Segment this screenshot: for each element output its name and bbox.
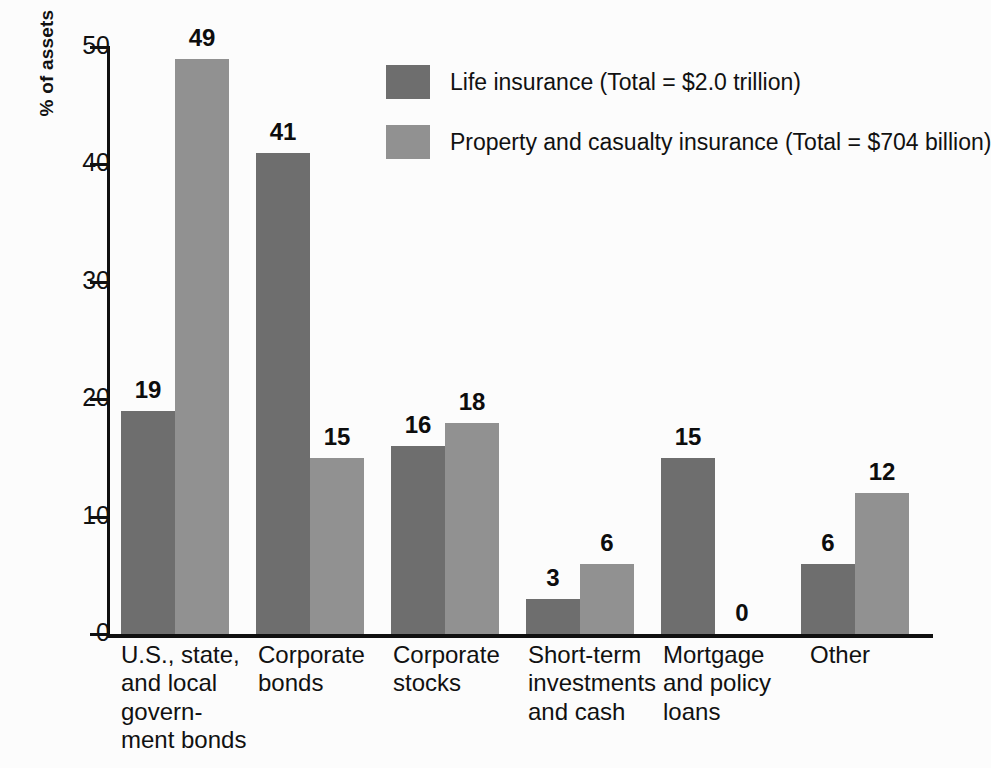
bar[interactable] bbox=[661, 458, 715, 634]
bar[interactable] bbox=[855, 493, 909, 634]
bar[interactable] bbox=[445, 423, 499, 634]
y-axis-tick-label: 10 bbox=[64, 503, 110, 528]
x-axis-category-label: Corporate stocks bbox=[393, 641, 528, 698]
bar-value-label: 12 bbox=[851, 460, 913, 484]
bar-group: 4115 bbox=[256, 40, 364, 634]
bar-value-label: 6 bbox=[797, 531, 859, 555]
legend-item[interactable]: Life insurance (Total = $2.0 trillion) bbox=[386, 60, 991, 104]
y-axis-tick-label: 0 bbox=[64, 620, 110, 645]
x-axis-line bbox=[107, 634, 933, 638]
y-axis-tick-label: 20 bbox=[64, 385, 110, 410]
bar-value-label: 3 bbox=[522, 566, 584, 590]
bar-value-label: 15 bbox=[306, 425, 368, 449]
bar-value-label: 18 bbox=[441, 390, 503, 414]
y-axis-tick-label: 50 bbox=[64, 33, 110, 58]
y-axis-tick-label: 30 bbox=[64, 268, 110, 293]
bar-value-label: 19 bbox=[117, 378, 179, 402]
bar[interactable] bbox=[801, 564, 855, 634]
x-axis-category-label: Mortgage and policy loans bbox=[663, 641, 803, 726]
bar-value-label: 41 bbox=[252, 120, 314, 144]
x-axis-category-label: Corporate bonds bbox=[258, 641, 393, 698]
chart-legend: Life insurance (Total = $2.0 trillion)Pr… bbox=[386, 60, 991, 180]
x-axis-category-label: U.S., state, and local govern- ment bond… bbox=[121, 641, 256, 754]
bar[interactable] bbox=[526, 599, 580, 634]
bar[interactable] bbox=[175, 59, 229, 634]
legend-label: Property and casualty insurance (Total =… bbox=[450, 129, 991, 156]
y-axis-title: % of assets bbox=[36, 0, 58, 138]
bar-group: 1949 bbox=[121, 40, 229, 634]
x-axis-category-label: Other bbox=[810, 641, 930, 669]
bar-value-label: 6 bbox=[576, 531, 638, 555]
x-axis-category-labels: U.S., state, and local govern- ment bond… bbox=[110, 641, 940, 766]
bar[interactable] bbox=[310, 458, 364, 634]
bar[interactable] bbox=[256, 153, 310, 634]
legend-color-swatch bbox=[386, 125, 430, 159]
legend-color-swatch bbox=[386, 65, 430, 99]
legend-label: Life insurance (Total = $2.0 trillion) bbox=[450, 69, 801, 96]
bar[interactable] bbox=[121, 411, 175, 634]
bar-value-label: 0 bbox=[711, 601, 773, 625]
legend-item[interactable]: Property and casualty insurance (Total =… bbox=[386, 120, 991, 164]
bar-value-label: 49 bbox=[171, 26, 233, 50]
bar[interactable] bbox=[580, 564, 634, 634]
bar-value-label: 15 bbox=[657, 425, 719, 449]
bar[interactable] bbox=[391, 446, 445, 634]
bar-value-label: 16 bbox=[387, 413, 449, 437]
x-axis-category-label: Short-term investments and cash bbox=[528, 641, 678, 726]
y-axis-tick-label: 40 bbox=[64, 150, 110, 175]
